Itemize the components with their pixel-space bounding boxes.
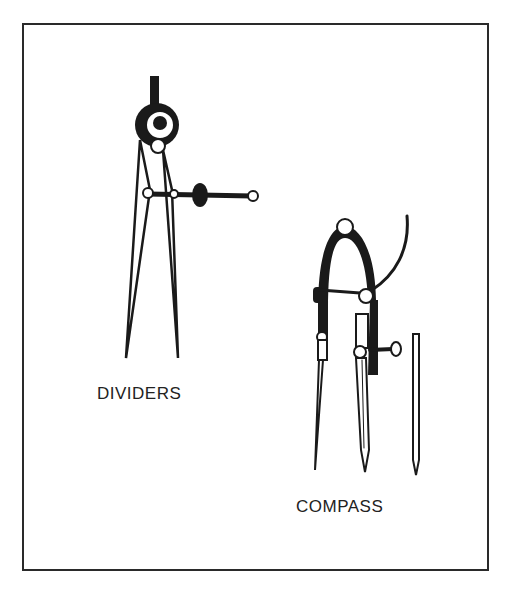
- dividers-illustration: [126, 76, 258, 358]
- compass-illustration: [313, 216, 419, 475]
- compass-label: COMPASS: [296, 497, 383, 517]
- dividers-label: DIVIDERS: [97, 384, 181, 404]
- instrument-illustrations: [0, 0, 520, 594]
